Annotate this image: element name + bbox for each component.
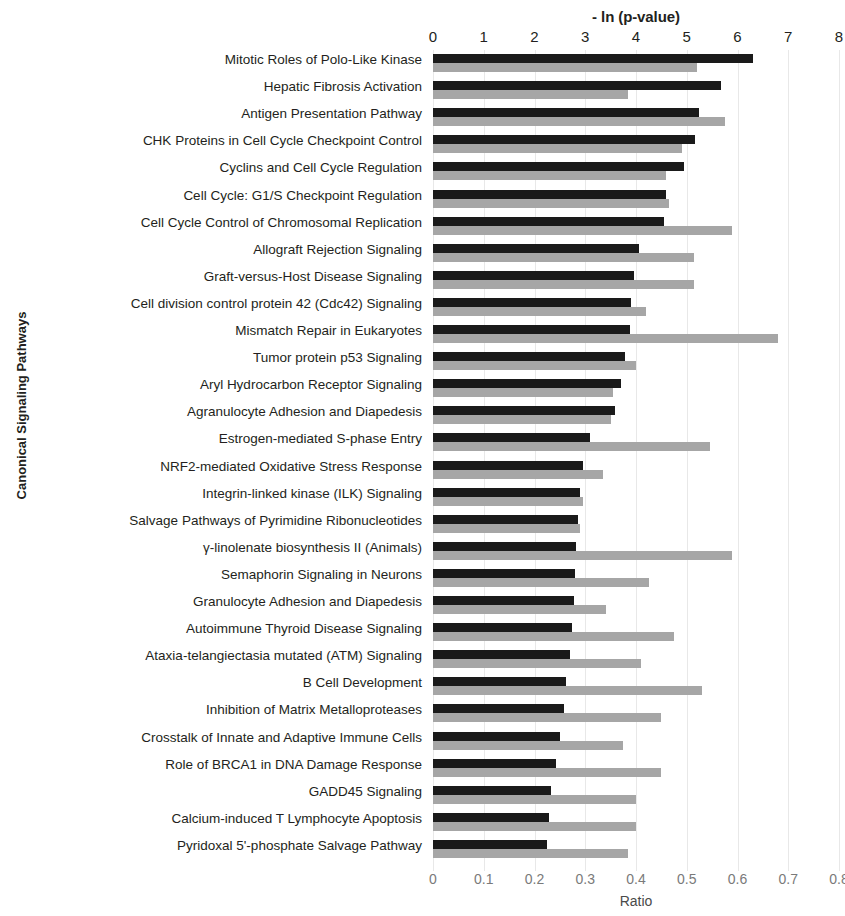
bar-group — [433, 488, 839, 506]
bar-ratio — [433, 768, 661, 777]
bar-pvalue — [433, 813, 549, 822]
bar-ratio — [433, 388, 613, 397]
category-label-column: Mitotic Roles of Polo-Like KinaseHepatic… — [30, 50, 428, 871]
tick-bottom-1: 0.1 — [464, 871, 504, 887]
bar-group — [433, 352, 839, 370]
bar-ratio — [433, 822, 636, 831]
bar-ratio — [433, 713, 661, 722]
bar-group — [433, 54, 839, 72]
category-label: Role of BRCA1 in DNA Damage Response — [30, 758, 422, 772]
bar-group — [433, 759, 839, 777]
category-label: Allograft Rejection Signaling — [30, 243, 422, 257]
bar-pvalue — [433, 108, 699, 117]
tick-top-7: 7 — [768, 28, 808, 45]
tick-bottom-7: 0.7 — [768, 871, 808, 887]
bar-group — [433, 732, 839, 750]
bar-group — [433, 623, 839, 641]
bar-ratio — [433, 795, 636, 804]
bar-group — [433, 325, 839, 343]
bar-pvalue — [433, 461, 583, 470]
category-label: Aryl Hydrocarbon Receptor Signaling — [30, 378, 422, 392]
category-label: Tumor protein p53 Signaling — [30, 351, 422, 365]
bar-group — [433, 379, 839, 397]
bar-pvalue — [433, 786, 551, 795]
bar-pvalue — [433, 379, 621, 388]
bar-pvalue — [433, 650, 570, 659]
category-label: Crosstalk of Innate and Adaptive Immune … — [30, 731, 422, 745]
tick-top-5: 5 — [667, 28, 707, 45]
bar-pvalue — [433, 325, 630, 334]
category-label: Estrogen-mediated S-phase Entry — [30, 432, 422, 446]
bar-ratio — [433, 605, 606, 614]
category-label: Mismatch Repair in Eukaryotes — [30, 324, 422, 338]
bar-pvalue — [433, 54, 753, 63]
bar-group — [433, 298, 839, 316]
category-label: Agranulocyte Adhesion and Diapedesis — [30, 405, 422, 419]
x-axis-ticks-top: 012345678 — [0, 28, 845, 48]
bar-pvalue — [433, 81, 721, 90]
tick-top-0: 0 — [413, 28, 453, 45]
canonical-signaling-pathways-chart: - ln (p-value) 012345678 Mitotic Roles o… — [0, 0, 845, 916]
bar-group — [433, 461, 839, 479]
bar-group — [433, 650, 839, 668]
bar-ratio — [433, 226, 732, 235]
bar-pvalue — [433, 732, 560, 741]
tick-top-4: 4 — [616, 28, 656, 45]
bar-group — [433, 217, 839, 235]
bar-ratio — [433, 524, 580, 533]
tick-bottom-3: 0.3 — [565, 871, 605, 887]
category-label: Cyclins and Cell Cycle Regulation — [30, 161, 422, 175]
bar-pvalue — [433, 135, 695, 144]
bar-ratio — [433, 849, 628, 858]
bar-pvalue — [433, 596, 574, 605]
y-axis-title: Canonical Signaling Pathways — [14, 281, 29, 531]
bar-group — [433, 162, 839, 180]
x-axis-title-bottom: Ratio — [433, 893, 839, 909]
bar-pvalue — [433, 217, 664, 226]
bar-pvalue — [433, 271, 634, 280]
bar-pvalue — [433, 704, 564, 713]
tick-top-2: 2 — [515, 28, 555, 45]
bar-ratio — [433, 334, 778, 343]
category-label: γ-linolenate biosynthesis II (Animals) — [30, 541, 422, 555]
category-label: Calcium-induced T Lymphocyte Apoptosis — [30, 812, 422, 826]
bar-group — [433, 135, 839, 153]
tick-top-8: 8 — [819, 28, 845, 45]
bar-ratio — [433, 361, 636, 370]
bar-ratio — [433, 632, 674, 641]
tick-top-1: 1 — [464, 28, 504, 45]
bar-ratio — [433, 117, 725, 126]
bar-pvalue — [433, 433, 590, 442]
bar-group — [433, 515, 839, 533]
bar-group — [433, 596, 839, 614]
category-label: Mitotic Roles of Polo-Like Kinase — [30, 53, 422, 67]
x-axis-title-top: - ln (p-value) — [433, 8, 839, 25]
bar-group — [433, 81, 839, 99]
bar-ratio — [433, 144, 682, 153]
category-label: B Cell Development — [30, 676, 422, 690]
bar-ratio — [433, 741, 623, 750]
category-label: Graft-versus-Host Disease Signaling — [30, 270, 422, 284]
bar-group — [433, 244, 839, 262]
bar-pvalue — [433, 488, 580, 497]
category-label: Cell Cycle: G1/S Checkpoint Regulation — [30, 189, 422, 203]
category-label: CHK Proteins in Cell Cycle Checkpoint Co… — [30, 134, 422, 148]
bar-ratio — [433, 497, 583, 506]
bar-pvalue — [433, 352, 625, 361]
bar-ratio — [433, 90, 628, 99]
category-label: Cell Cycle Control of Chromosomal Replic… — [30, 216, 422, 230]
bar-ratio — [433, 171, 666, 180]
category-label: Antigen Presentation Pathway — [30, 107, 422, 121]
bar-group — [433, 677, 839, 695]
bar-ratio — [433, 551, 732, 560]
gridline-8 — [839, 50, 840, 871]
tick-top-6: 6 — [718, 28, 758, 45]
category-label: NRF2-mediated Oxidative Stress Response — [30, 460, 422, 474]
tick-bottom-5: 0.5 — [667, 871, 707, 887]
bar-group — [433, 786, 839, 804]
bar-pvalue — [433, 542, 576, 551]
category-label: Cell division control protein 42 (Cdc42)… — [30, 297, 422, 311]
bar-ratio — [433, 442, 710, 451]
category-label: Ataxia-telangiectasia mutated (ATM) Sign… — [30, 649, 422, 663]
bar-pvalue — [433, 623, 572, 632]
